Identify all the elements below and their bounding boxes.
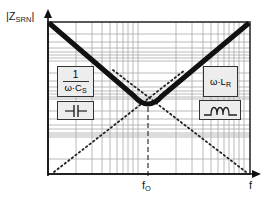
formula-numerator: 1 [58, 69, 93, 81]
y-axis-label: |ZSRN| [6, 11, 34, 24]
capacitor-formula-box: 1 ω·CS [57, 66, 94, 97]
capacitor-icon [58, 102, 95, 121]
y-axis-arrow-icon [44, 9, 52, 18]
inductor-symbol-box [199, 100, 241, 120]
x-axis-label: f [249, 180, 252, 191]
inductor-formula: ω·LR [204, 76, 237, 88]
inductor-icon [200, 101, 242, 121]
x-axis-arrow-icon [252, 170, 261, 178]
f0-label: fO [142, 180, 151, 193]
inductor-formula-box: ω·LR [203, 66, 238, 97]
formula-denominator: ω·CS [58, 82, 93, 97]
capacitor-symbol-box [57, 101, 94, 120]
capacitor-formula: 1 ω·CS [58, 69, 93, 97]
